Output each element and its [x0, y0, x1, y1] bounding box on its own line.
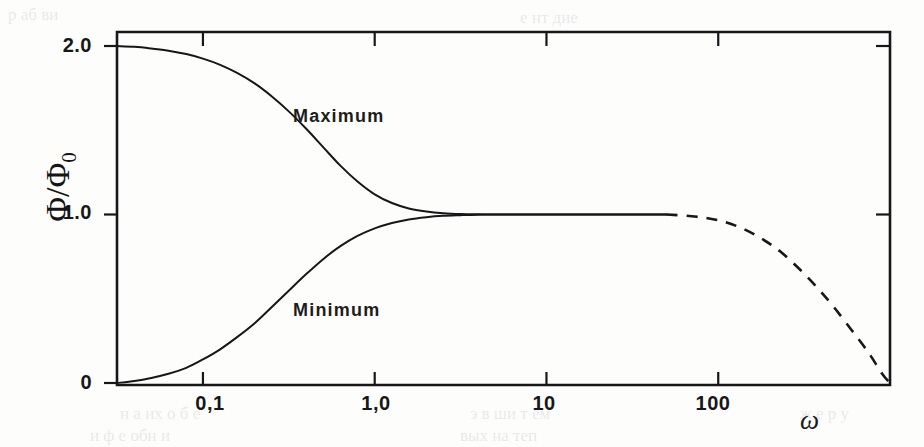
data-curves: [117, 46, 890, 383]
curve-maximum: [117, 46, 667, 215]
y-axis-title: Φ/Φ0: [39, 107, 77, 267]
x-tick-label-10: 10: [532, 392, 555, 415]
figure-container: р аб вие нт диен а их о б еэ в ши т еми …: [0, 0, 924, 447]
x-tick-label-0p1: 0,1: [195, 392, 224, 415]
annotation-maximum: Maximum: [293, 106, 384, 127]
y-tick-label-0: 0: [80, 371, 92, 394]
annotation-minimum: Minimum: [293, 300, 380, 321]
y-tick-label-2: 2.0: [63, 34, 92, 57]
x-tick-label-100: 100: [696, 392, 731, 415]
y-axis-title-subscript: 0: [57, 152, 81, 163]
axis-frame: [117, 32, 890, 385]
chart-plot-area: [0, 0, 924, 447]
x-tick-label-1p0: 1,0: [361, 392, 390, 415]
curve-minimum: [117, 214, 667, 383]
y-axis-title-main: Φ/Φ: [39, 163, 76, 222]
x-axis-title: ω: [800, 405, 819, 436]
axis-ticks: [104, 32, 890, 385]
curve-rolloff-dashed: [667, 215, 890, 384]
